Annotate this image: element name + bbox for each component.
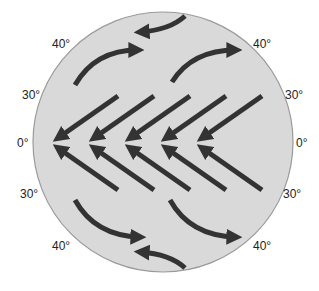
globe-circle [33, 12, 293, 272]
label-right-south-30: 30° [283, 188, 301, 200]
label-left-north-40: 40° [52, 38, 70, 50]
label-left-north-30: 30° [22, 89, 40, 101]
wind-circulation-diagram: 40° 30° 0° 30° 40° 40° 30° 0° 30° 40° [0, 0, 319, 291]
label-right-north-40: 40° [253, 38, 271, 50]
label-right-equator: 0° [296, 137, 307, 149]
label-right-south-40: 40° [253, 240, 271, 252]
label-left-south-30: 30° [20, 188, 38, 200]
label-left-equator: 0° [17, 137, 28, 149]
label-left-south-40: 40° [52, 240, 70, 252]
label-right-north-30: 30° [285, 89, 303, 101]
